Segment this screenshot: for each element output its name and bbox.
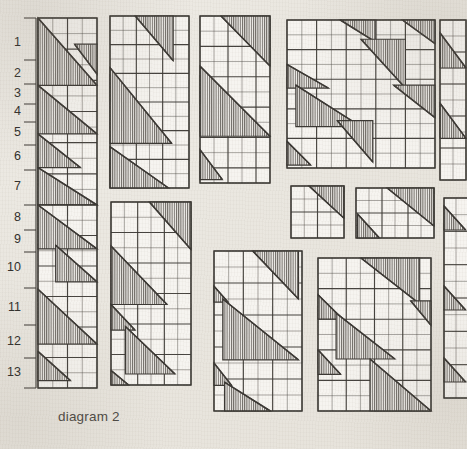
row-number-label: 5	[14, 125, 21, 139]
figure-caption: diagram 2	[58, 409, 120, 424]
block-tall-column-2	[110, 16, 189, 188]
row-number-label: 8	[14, 210, 21, 224]
row-number-label: 11	[8, 300, 21, 314]
block-bottom-right	[318, 258, 431, 411]
row-number-label: 10	[7, 260, 21, 274]
row-number-label: 1	[14, 35, 21, 49]
row-number-label: 9	[14, 232, 21, 246]
row-number-label: 12	[7, 334, 21, 348]
block-small-mid-left	[291, 186, 344, 238]
block-bottom-middle	[214, 251, 302, 411]
row-number-label: 4	[14, 104, 21, 118]
block-large-square	[287, 20, 435, 168]
row-ruler-layer: 12345678910111213	[7, 18, 36, 388]
row-number-label: 2	[14, 66, 21, 80]
diagram-stage: 12345678910111213	[0, 0, 467, 449]
block-right-edge-lower	[444, 198, 467, 398]
row-number-label: 3	[14, 86, 21, 100]
quilt-blocks-layer	[38, 16, 467, 411]
row-number-label: 7	[14, 179, 21, 193]
block-tall-column-3	[200, 16, 270, 183]
block-strip-left-lower	[38, 205, 97, 388]
block-right-edge-upper	[440, 20, 466, 180]
row-number-label: 6	[14, 149, 21, 163]
block-strip-left-upper	[38, 18, 97, 205]
row-number-label: 13	[7, 365, 21, 379]
block-small-mid-right	[356, 188, 434, 238]
block-tall-column-bottom-left	[111, 202, 191, 385]
quilt-diagram-svg: 12345678910111213	[0, 0, 467, 449]
